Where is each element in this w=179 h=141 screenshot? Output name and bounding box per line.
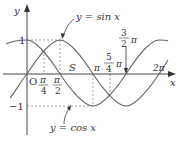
x-tick-pi: π — [93, 63, 101, 73]
origin-label: O — [29, 76, 37, 87]
x-tick-pi-over-2: π 2 — [53, 75, 62, 96]
x-tick-2pi: 2π — [152, 63, 166, 73]
cosine-curve-label: y = cos x — [49, 122, 96, 133]
trig-graph-diagram: y x O 1 −1 π 4 π 2 π 5 4 π 3 2 π 2π y = … — [0, 0, 179, 141]
region-s-label: S — [69, 62, 76, 73]
y-tick-1: 1 — [19, 35, 25, 46]
svg-text:4: 4 — [106, 64, 112, 74]
svg-text:π: π — [53, 75, 61, 85]
y-axis-label: y — [13, 5, 20, 16]
svg-text:5: 5 — [106, 52, 112, 62]
y-tick-minus1: −1 — [9, 101, 24, 112]
guide-lines — [27, 40, 110, 106]
svg-text:2: 2 — [55, 86, 61, 96]
svg-text:π: π — [115, 59, 123, 69]
svg-text:π: π — [39, 75, 47, 85]
y-axis-arrow-icon — [24, 4, 30, 12]
svg-text:2: 2 — [121, 39, 127, 49]
svg-text:3: 3 — [121, 28, 127, 38]
cosine-curve — [6, 40, 168, 106]
svg-text:4: 4 — [41, 86, 47, 96]
sine-label-arrow-icon — [61, 33, 65, 39]
x-tick-3pi-over-2: 3 2 π — [119, 28, 138, 49]
svg-text:π: π — [130, 35, 138, 45]
x-tick-5pi-over-4: 5 4 π — [104, 52, 123, 74]
x-axis-label: x — [170, 77, 176, 88]
sine-curve-label: y = sin x — [75, 11, 120, 22]
x-tick-pi-over-4: π 4 — [39, 75, 48, 96]
